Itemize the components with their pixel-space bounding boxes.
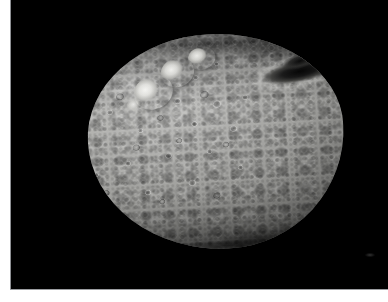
photo-page [0,0,388,302]
crater [83,135,91,143]
crater [157,115,167,125]
crater [206,148,215,157]
crater [137,128,146,136]
crater [191,121,201,131]
crater [212,99,227,113]
crater [93,172,101,180]
crater [242,94,252,104]
crater [229,125,242,137]
asteroid-photograph [11,0,388,289]
crater [165,152,177,163]
page-bottom-rule [10,289,388,290]
crater [237,164,246,172]
crater [132,144,144,155]
crater [222,141,232,151]
rough-southern-rim [91,184,350,255]
crater [125,160,134,169]
asteroid-body [83,27,350,255]
crater [176,138,185,146]
sensor-noise-speck [363,252,377,258]
crater [188,179,201,191]
crater [174,98,186,109]
crater [106,109,116,119]
